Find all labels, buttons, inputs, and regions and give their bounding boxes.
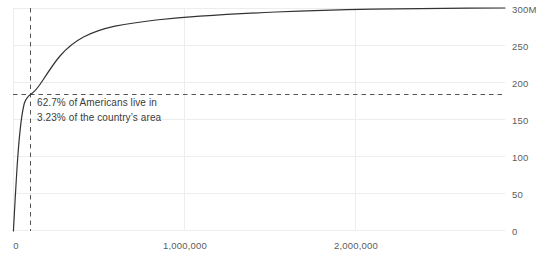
- y-tick-label-150: 150: [512, 114, 528, 125]
- y-tick-label-250: 250: [512, 40, 528, 51]
- callout-line-1: 62.7% of Americans live in: [37, 96, 161, 111]
- x-tick-label-0: 0: [13, 240, 18, 251]
- x-tick-label-2000000: 2,000,000: [334, 240, 378, 251]
- chart-plot-area: [0, 0, 560, 263]
- y-tick-label-0: 0: [512, 225, 517, 236]
- y-tick-label-300M: 300M: [512, 3, 537, 14]
- callout-line-2: 3.23% of the country’s area: [37, 111, 161, 126]
- chart-container: 300M 250 200 150 100 50 0 0 1,000,000 2,…: [0, 0, 560, 263]
- y-tick-label-50: 50: [512, 188, 523, 199]
- x-tick-label-1000000: 1,000,000: [163, 240, 207, 251]
- y-tick-label-100: 100: [512, 151, 528, 162]
- population-area-callout: 62.7% of Americans live in 3.23% of the …: [37, 96, 161, 125]
- y-tick-label-200: 200: [512, 77, 528, 88]
